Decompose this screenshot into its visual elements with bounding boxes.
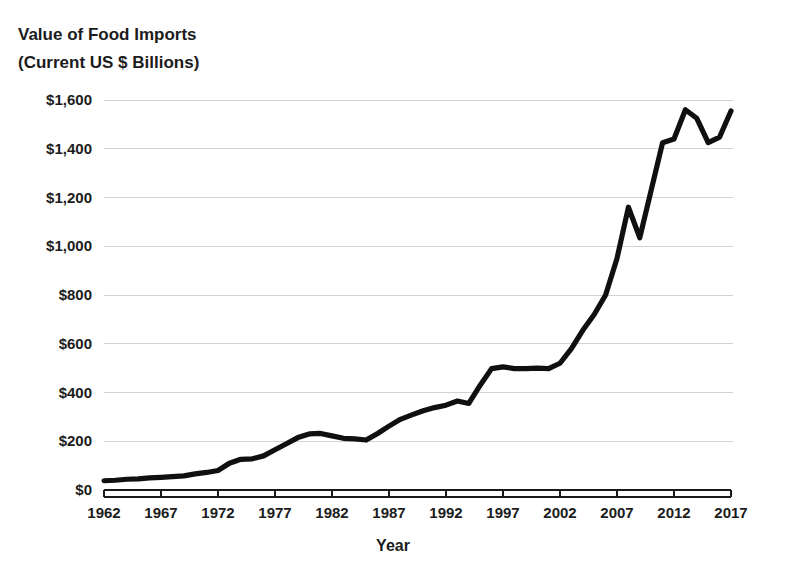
- x-axis-title: Year: [376, 537, 410, 554]
- x-axis-tick-label: 1962: [87, 504, 120, 521]
- y-axis-tick-label: $200: [59, 432, 92, 449]
- x-axis-tick-label: 1982: [315, 504, 348, 521]
- y-axis-tick-label: $0: [75, 481, 92, 498]
- x-axis-tick-label: 2002: [543, 504, 576, 521]
- y-axis-tick-label: $400: [59, 384, 92, 401]
- x-axis-tick-label: 1992: [429, 504, 462, 521]
- chart-canvas: Value of Food Imports (Current US $ Bill…: [0, 0, 785, 573]
- x-axis-tick-label: 1997: [486, 504, 519, 521]
- y-axis-tick-label: $1,200: [46, 189, 92, 206]
- chart-background: [0, 0, 785, 573]
- food-imports-line-chart: Value of Food Imports (Current US $ Bill…: [0, 0, 785, 573]
- y-axis-tick-label: $1,600: [46, 91, 92, 108]
- x-axis-tick-label: 1972: [201, 504, 234, 521]
- y-axis-tick-label: $600: [59, 335, 92, 352]
- y-axis-tick-label: $800: [59, 286, 92, 303]
- chart-title-line-1: Value of Food Imports: [18, 25, 197, 44]
- y-axis-tick-label: $1,400: [46, 140, 92, 157]
- x-axis-tick-label: 2017: [714, 504, 747, 521]
- x-axis-tick-label: 2012: [657, 504, 690, 521]
- chart-title-line-2: (Current US $ Billions): [18, 53, 199, 72]
- x-axis-tick-label: 2007: [600, 504, 633, 521]
- x-axis-tick-label: 1987: [372, 504, 405, 521]
- y-axis-tick-label: $1,000: [46, 237, 92, 254]
- x-axis-tick-label: 1967: [144, 504, 177, 521]
- x-axis-tick-label: 1977: [258, 504, 291, 521]
